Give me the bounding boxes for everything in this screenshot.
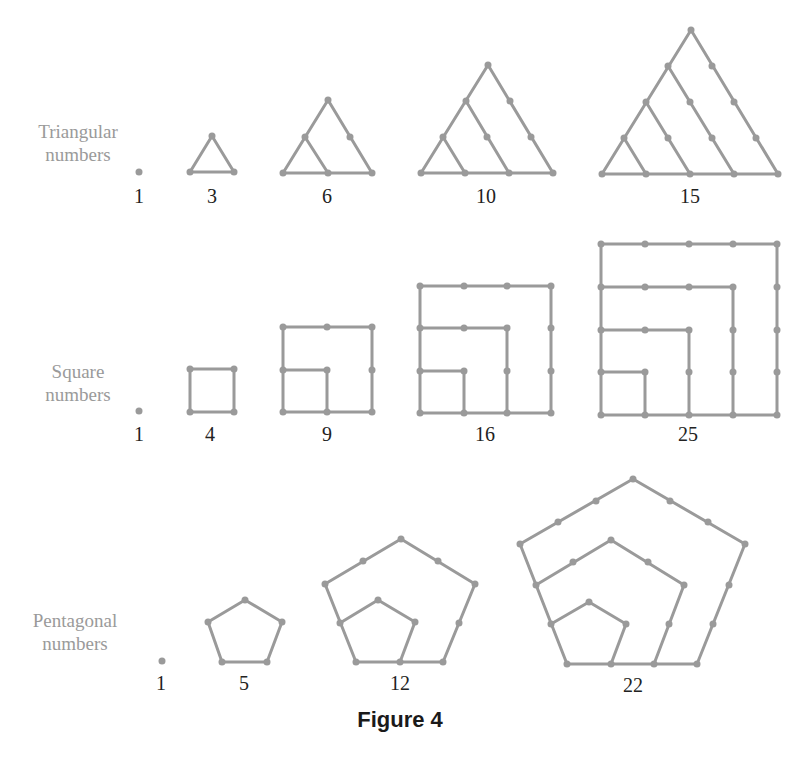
row-label-square-line2: numbers — [45, 384, 110, 405]
square-1-figure — [136, 408, 143, 415]
square-4-figure — [187, 366, 238, 416]
pentagonal-12-figure — [322, 536, 479, 666]
square-1-label: 1 — [134, 423, 144, 445]
square-9-label: 9 — [322, 423, 332, 445]
triangular-row: Triangular numbers 1 3 6 — [38, 27, 781, 208]
row-label-triangular-line1: Triangular — [38, 121, 118, 142]
triangular-15-figure — [599, 27, 782, 178]
row-label-pentagonal-line1: Pentagonal — [33, 610, 117, 631]
pentagonal-row: Pentagonal numbers 1 5 — [33, 476, 749, 697]
row-label-pentagonal-line2: numbers — [42, 633, 107, 654]
pentagonal-22-label: 22 — [623, 674, 643, 696]
triangular-3-figure — [187, 133, 238, 176]
pentagonal-5-figure — [205, 597, 286, 666]
figure-caption: Figure 4 — [357, 707, 443, 732]
square-25-figure — [598, 241, 781, 419]
triangular-10-figure — [418, 62, 557, 177]
triangular-6-label: 6 — [322, 185, 332, 207]
square-25-label: 25 — [678, 423, 698, 445]
square-16-label: 16 — [475, 423, 495, 445]
row-label-triangular-line2: numbers — [45, 144, 110, 165]
square-9-figure — [280, 324, 376, 416]
pentagonal-5-label: 5 — [239, 672, 249, 694]
triangular-1-figure — [136, 169, 143, 176]
triangular-1-label: 1 — [134, 185, 144, 207]
square-4-label: 4 — [205, 423, 215, 445]
triangular-3-label: 3 — [207, 185, 217, 207]
figurate-numbers-figure: Triangular numbers 1 3 6 — [0, 0, 804, 763]
square-row: Square numbers 1 4 — [45, 241, 780, 446]
pentagonal-22-figure — [517, 476, 749, 668]
triangular-10-label: 10 — [476, 185, 496, 207]
triangular-15-label: 15 — [680, 185, 700, 207]
triangular-6-figure — [280, 97, 376, 177]
pentagonal-12-label: 12 — [390, 672, 410, 694]
pentagonal-1-figure — [159, 658, 166, 665]
square-16-figure — [417, 283, 555, 417]
pentagonal-1-label: 1 — [156, 672, 166, 694]
row-label-square-line1: Square — [52, 361, 105, 382]
